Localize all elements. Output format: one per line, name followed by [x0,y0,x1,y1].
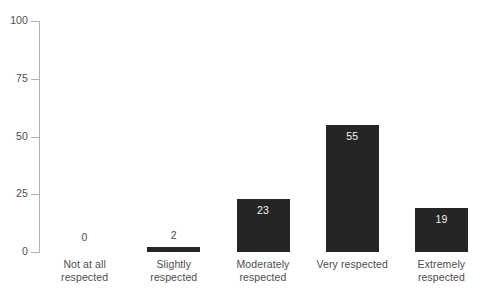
y-tick-label-wrap: 25 [0,187,28,200]
plot-area: 02235519 [40,21,486,252]
y-tick-label: 50 [2,130,28,142]
y-tick-label-wrap: 75 [0,72,28,85]
y-tick-label: 0 [2,245,28,257]
y-tick-100 [31,21,40,22]
bar-value-label: 0 [58,231,111,243]
y-tick-label-wrap: 50 [0,130,28,143]
y-tick-label: 100 [2,14,28,26]
x-axis-label: Not at all respected [43,258,127,284]
bar-chart: 0255075100 02235519 Not at all respected… [0,0,486,298]
y-tick-50 [31,137,40,138]
x-axis-label: Very respected [310,258,394,271]
bar-value-label: 55 [326,130,379,142]
y-tick-label-wrap: 100 [0,14,28,27]
bar[interactable]: 55 [326,125,379,252]
bar[interactable] [147,247,200,252]
bar[interactable]: 19 [415,208,468,252]
bar-value-label: 2 [147,229,200,241]
y-tick-0 [31,252,40,253]
y-tick-label: 75 [2,72,28,84]
y-tick-75 [31,79,40,80]
y-tick-25 [31,194,40,195]
bar[interactable]: 23 [237,199,290,252]
bar-value-label: 23 [237,204,290,216]
x-axis-label: Slightly respected [132,258,216,284]
y-tick-label: 25 [2,187,28,199]
x-axis-label: Moderately respected [221,258,305,284]
x-axis-label: Extremely respected [399,258,483,284]
y-tick-label-wrap: 0 [0,245,28,258]
bar-value-label: 19 [415,213,468,225]
